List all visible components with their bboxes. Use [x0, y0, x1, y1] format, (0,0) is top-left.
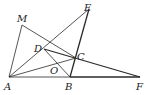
label-point-B: B: [64, 81, 72, 92]
segment-EB: [70, 9, 89, 77]
label-point-F: F: [135, 81, 144, 92]
point-labels: AMEDCOBF: [3, 2, 144, 92]
label-point-M: M: [16, 13, 28, 24]
geometry-figure: AMEDCOBF: [0, 0, 151, 95]
label-point-A: A: [3, 81, 11, 92]
label-point-O: O: [50, 65, 58, 76]
segments: [9, 9, 140, 77]
label-point-C: C: [77, 51, 85, 62]
label-point-E: E: [83, 2, 92, 13]
segment-AM: [9, 25, 22, 77]
segment-MC: [22, 25, 76, 58]
label-point-D: D: [33, 43, 42, 54]
segment-AC: [9, 58, 76, 77]
